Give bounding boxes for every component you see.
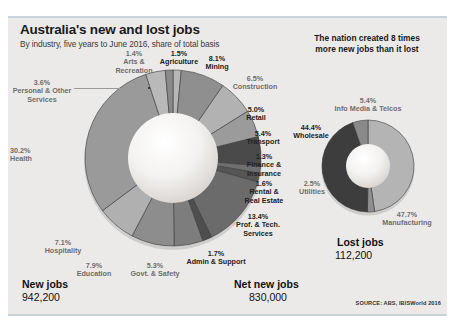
label-name: Mining: [196, 63, 238, 71]
label-name: Hospitality: [36, 247, 90, 255]
label-hospitality: 7.1% Hospitality: [36, 239, 90, 256]
label-transport: 5.4% Transport: [238, 130, 288, 147]
label-name-2: Recreation: [106, 67, 162, 75]
label-name: Transport: [238, 138, 288, 146]
label-name-2: Real Estate: [238, 197, 290, 205]
label-name: Info Media & Telcos: [316, 105, 420, 113]
label-manufacturing: 47.7% Manufacturing: [372, 211, 442, 228]
label-personal-other-services: 3.6% Personal & Other Services: [4, 79, 80, 104]
lost-jobs-total-value: 112,200: [335, 249, 372, 261]
label-info-media-telcos: 5.4% Info Media & Telcos: [316, 97, 420, 114]
label-utilities: 2.5% Utilities: [292, 180, 332, 197]
label-admin-support: 1.7% Admin & Support: [178, 250, 254, 267]
page-title: Australia's new and lost jobs: [20, 22, 200, 37]
kicker-line-1: The nation created 8 times: [292, 33, 442, 44]
label-name: Utilities: [292, 188, 332, 196]
new-jobs-total-value: 942,200: [22, 291, 60, 303]
label-name: Admin & Support: [178, 258, 254, 266]
label-name: Construction: [227, 83, 283, 91]
kicker-line-2: more new jobs than it lost: [292, 44, 442, 55]
source-note: SOURCE: ABS, IBISWorld 2016: [356, 300, 441, 306]
label-name-2: Insurance: [240, 170, 288, 178]
new-jobs-total-label: New jobs: [22, 278, 68, 290]
label-name: Retail: [235, 114, 277, 122]
label-finance-insurance: 1.3% Finance & Insurance: [240, 153, 288, 178]
net-new-jobs-value: 830,000: [249, 291, 287, 303]
label-education: 7.9% Education: [68, 262, 120, 279]
label-name: Education: [68, 270, 120, 278]
donut-hole: [128, 113, 218, 203]
label-retail: 5.0% Retail: [235, 106, 277, 123]
label-construction: 6.5% Construction: [227, 75, 283, 92]
net-new-jobs-label: Net new jobs: [234, 278, 299, 290]
leader-dot-personal-services: [148, 87, 150, 89]
bottom-rule: [8, 314, 447, 316]
lost-jobs-total-label: Lost jobs: [337, 236, 384, 248]
label-wholesale: 44.4% Wholesale: [288, 124, 334, 141]
label-name: Govt. & Safety: [124, 270, 186, 278]
label-name: Manufacturing: [372, 219, 442, 227]
donut-hole: [346, 144, 390, 188]
page-subtitle: By industry, five years to June 2016, sh…: [20, 39, 219, 49]
label-health: 30.2% Health: [10, 147, 70, 164]
label-rental-real-estate: 1.6% Rental & Real Estate: [238, 180, 290, 205]
label-mining: 8.1% Mining: [196, 55, 238, 72]
label-name-2: Services: [230, 230, 286, 238]
label-govt-safety: 5.3% Govt. & Safety: [124, 262, 186, 279]
label-name: Wholesale: [288, 132, 334, 140]
label-prof-tech-services: 13.4% Prof. & Tech. Services: [230, 213, 286, 238]
top-rule: [8, 16, 447, 18]
label-name-2: Services: [4, 96, 80, 104]
label-name: Health: [10, 155, 70, 163]
infographic-root: Australia's new and lost jobs By industr…: [0, 0, 455, 329]
leader-line-personal-services: [74, 88, 150, 89]
kicker-callout: The nation created 8 times more new jobs…: [292, 33, 442, 55]
